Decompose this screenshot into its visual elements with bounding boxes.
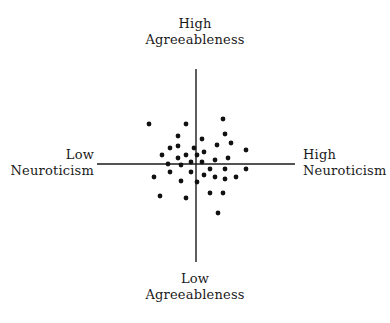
- data-point: [184, 122, 189, 127]
- label-left-line1: Low: [10, 147, 94, 163]
- label-low-neuroticism: Low Neuroticism: [10, 147, 94, 179]
- data-point: [184, 196, 189, 201]
- data-point: [223, 132, 228, 137]
- label-high-agreeableness: High Agreeableness: [145, 16, 245, 48]
- data-point: [208, 191, 213, 196]
- data-point: [200, 137, 205, 142]
- data-point: [244, 148, 249, 153]
- data-point: [223, 167, 228, 172]
- data-point: [216, 211, 221, 216]
- data-point: [208, 167, 213, 172]
- data-point: [229, 141, 234, 146]
- data-point: [189, 160, 194, 165]
- data-point: [234, 175, 239, 180]
- label-high-neuroticism: High Neuroticism: [303, 147, 387, 179]
- data-point: [184, 153, 189, 158]
- data-point: [223, 177, 228, 182]
- data-point: [176, 144, 181, 149]
- data-point: [147, 122, 152, 127]
- data-point: [195, 180, 200, 185]
- data-point: [179, 179, 184, 184]
- label-left-line2: Neuroticism: [10, 163, 94, 179]
- label-right-line1: High: [303, 147, 387, 163]
- data-point: [152, 175, 157, 180]
- label-bottom-line2: Agreeableness: [145, 287, 245, 303]
- data-point: [179, 163, 184, 168]
- label-low-agreeableness: Low Agreeableness: [145, 271, 245, 303]
- data-point: [200, 160, 205, 165]
- data-point: [215, 143, 220, 148]
- data-point: [176, 134, 181, 139]
- data-point: [221, 117, 226, 122]
- data-point: [213, 158, 218, 163]
- label-top-line1: High: [145, 16, 245, 32]
- data-point: [192, 146, 197, 151]
- data-point: [244, 167, 249, 172]
- data-point: [158, 194, 163, 199]
- data-point: [168, 170, 173, 175]
- data-point: [213, 175, 218, 180]
- data-points: [147, 117, 249, 216]
- data-point: [189, 170, 194, 175]
- label-top-line2: Agreeableness: [145, 32, 245, 48]
- data-point: [166, 162, 171, 167]
- data-point: [202, 173, 207, 178]
- data-point: [176, 156, 181, 161]
- data-point: [195, 153, 200, 158]
- data-point: [160, 153, 165, 158]
- data-point: [226, 156, 231, 161]
- data-point: [202, 150, 207, 155]
- label-right-line2: Neuroticism: [303, 163, 387, 179]
- data-point: [168, 146, 173, 151]
- label-bottom-line1: Low: [145, 271, 245, 287]
- data-point: [221, 191, 226, 196]
